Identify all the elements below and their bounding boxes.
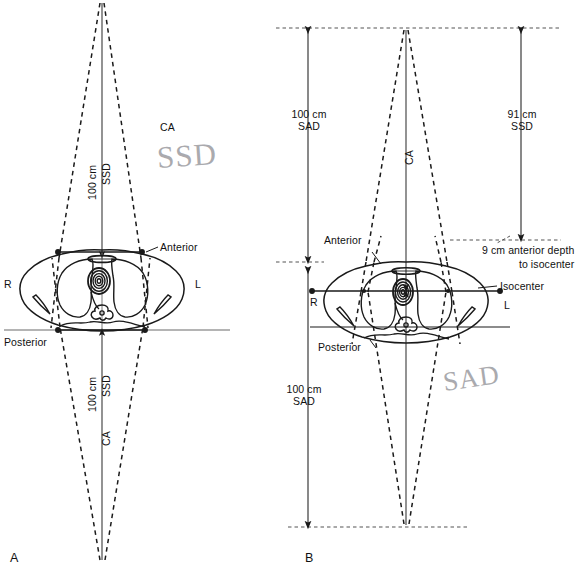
panel-a-upper-distance-label: 100 cm: [86, 165, 98, 200]
panel-b-left-label: L: [504, 299, 510, 311]
panel-b-scapula-left: [458, 307, 475, 326]
panel-a-scapula-right: [33, 295, 50, 314]
panel-b-letter-text: B: [305, 551, 313, 565]
panel-a-upper-beam-edges: [59, 3, 141, 258]
panel-b-lung-right: [361, 271, 397, 329]
panel-a-letter-text: A: [10, 551, 18, 565]
panel-a-lung-right: [57, 259, 93, 317]
panel-a-anterior-text: Anterior: [160, 241, 198, 253]
panel-b-ca-label: CA: [403, 150, 415, 165]
panel-a-tumor: [88, 268, 110, 294]
panel-b-left-text: L: [504, 299, 510, 311]
panel-b-ssd-label: 91 cm SSD: [500, 108, 544, 133]
panel-b-letter: B: [305, 551, 313, 566]
panel-b-anterior-label: Anterior: [324, 234, 362, 246]
panel-a-scapula-left: [154, 295, 171, 314]
panel-a-right-label: R: [4, 278, 12, 290]
panel-b-lung-left: [416, 271, 452, 329]
panel-b-handwritten-sad-text: SAD: [441, 359, 502, 397]
panel-a-ca-bottom-label: CA: [100, 431, 112, 446]
panel-b-anterior-depth-line2: to isocenter: [482, 258, 574, 272]
panel-a-upper-distance-unit-label: SSD: [100, 163, 112, 185]
panel-b-posterior-text: Posterior: [318, 341, 361, 353]
panel-b-isocenter-text: Isocenter: [500, 280, 544, 292]
panel-b-isocenter-label: Isocenter: [500, 280, 544, 292]
panel-b-ca-text: CA: [403, 150, 415, 165]
panel-b-scapula-right: [337, 307, 354, 326]
panel-a-lower-distance-label: 100 cm: [86, 377, 98, 412]
panel-b-anterior-depth-label: 9 cm anterior depth to isocenter: [482, 244, 574, 272]
panel-b-isocenter-leader: [478, 286, 497, 288]
panel-b-sad-top-value: 100 cm: [287, 108, 331, 120]
panel-a-posterior-label: Posterior: [4, 336, 47, 348]
panel-a-right-text: R: [4, 278, 12, 290]
panel-b-sad-top-unit: SAD: [287, 120, 331, 132]
panel-b-sad-bottom-unit: SAD: [278, 395, 330, 407]
panel-b-ssd-unit: SSD: [500, 120, 544, 132]
panel-b-tumor: [393, 279, 413, 305]
panel-a-left-label: L: [195, 278, 201, 290]
panel-a-handwritten-ssd: SSD: [156, 136, 218, 176]
panel-a-upper-distance-unit: SSD: [100, 163, 112, 185]
panel-a-lower-distance-unit-label: SSD: [100, 375, 112, 397]
panel-a-posterior-text: Posterior: [4, 336, 47, 348]
panel-b-sad-bottom-value: 100 cm: [278, 383, 330, 395]
figure-root: 100 cm SSD CA SSD Anterior R L Posterior…: [0, 0, 579, 580]
panel-b-right-label: R: [310, 296, 318, 308]
panel-b-posterior-label: Posterior: [318, 341, 361, 353]
panel-a-anterior-label: Anterior: [160, 241, 198, 253]
panel-b-anterior-text: Anterior: [324, 234, 362, 246]
panel-b-posterior-leader: [370, 340, 376, 348]
panel-b-right-text: R: [310, 296, 318, 308]
panel-a-lower-distance-value: 100 cm: [86, 377, 98, 412]
diagram-canvas: [0, 0, 579, 580]
panel-a-anterior-leader: [146, 247, 158, 252]
panel-a-upper-distance-value: 100 cm: [86, 165, 98, 200]
panel-b-group: [276, 28, 561, 527]
panel-b-ssd-value: 91 cm: [500, 108, 544, 120]
panel-a-left-text: L: [195, 278, 201, 290]
panel-b-sad-bottom-label: 100 cm SAD: [278, 383, 330, 408]
panel-a-lower-distance-unit: SSD: [100, 375, 112, 397]
panel-a-letter: A: [10, 551, 18, 566]
panel-a-handwritten-ssd-text: SSD: [156, 136, 218, 175]
panel-a-ca-bottom-text: CA: [100, 431, 112, 446]
panel-b-sad-top-label: 100 cm SAD: [287, 108, 331, 133]
panel-a-ca-top-text: CA: [160, 121, 175, 133]
panel-b-anterior-depth-line1: 9 cm anterior depth: [482, 244, 574, 258]
panel-a-ca-top-label: CA: [160, 121, 175, 133]
